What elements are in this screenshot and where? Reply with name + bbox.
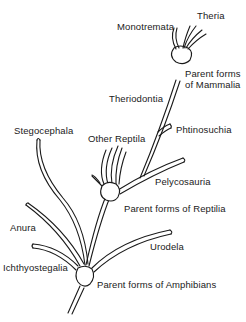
root-trunk bbox=[68, 286, 84, 314]
label-parent-reptilia: Parent forms of Reptilia bbox=[124, 203, 226, 214]
label-theria: Theria bbox=[197, 10, 225, 21]
branch-anura bbox=[26, 203, 84, 266]
label-parent-mammalia-line1: Parent forms bbox=[185, 68, 241, 79]
label-parent-amphibians: Parent forms of Amphibians bbox=[97, 279, 216, 290]
label-urodela: Urodela bbox=[150, 241, 184, 252]
branch-other-reptila bbox=[92, 146, 126, 186]
label-other-reptila: Other Reptila bbox=[88, 133, 145, 144]
phylogeny-diagram: Theria Monotremata Parent forms of Mamma… bbox=[0, 0, 246, 322]
tree-drawing bbox=[0, 0, 246, 322]
label-anura: Anura bbox=[10, 222, 36, 233]
node-reptile-parent bbox=[101, 182, 120, 201]
label-theriodontia: Theriodontia bbox=[109, 93, 163, 104]
label-parent-mammalia-line2: of Mammalia bbox=[185, 79, 240, 90]
label-ichthyostegalia: Ichthyostegalia bbox=[3, 262, 68, 273]
node-amphibian-parent bbox=[76, 266, 94, 286]
label-stegocephala: Stegocephala bbox=[14, 125, 73, 136]
label-pelycosauria: Pelycosauria bbox=[155, 176, 211, 187]
label-monotremata: Monotremata bbox=[117, 21, 174, 32]
branch-theria bbox=[183, 26, 206, 49]
label-phtinosuchia: Phtinosuchia bbox=[176, 124, 232, 135]
